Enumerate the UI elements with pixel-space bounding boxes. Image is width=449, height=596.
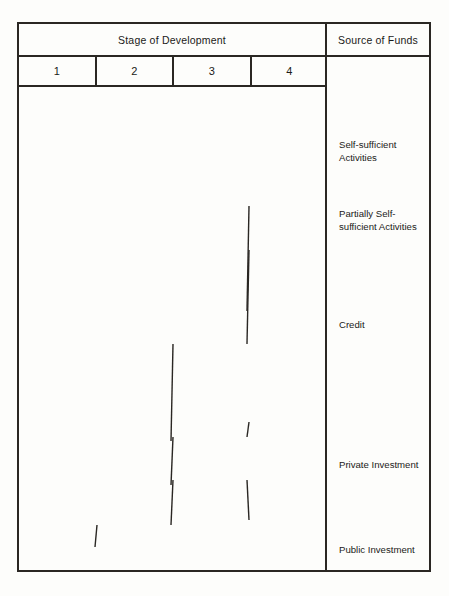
legend-label-public-investment: Public Investment	[339, 543, 431, 556]
chart-frame: Stage of Development Source of Funds 1 2…	[17, 22, 431, 572]
header-row-stage-numbers: 1 2 3 4	[19, 57, 327, 87]
legend-label-credit: Credit	[339, 318, 431, 331]
stage-cell-3: 3	[174, 57, 252, 85]
source-of-funds-title: Source of Funds	[338, 34, 418, 46]
stage-cell-1: 1	[19, 57, 97, 85]
figure-root: Stage of Development Source of Funds 1 2…	[0, 0, 449, 596]
header-row-titles: Stage of Development Source of Funds	[19, 24, 429, 57]
header-source-of-funds: Source of Funds	[327, 24, 429, 57]
legend-panel: Self-sufficient Activities Partially Sel…	[327, 87, 429, 570]
legend-label-private-investment: Private Investment	[339, 458, 431, 471]
stage-cell-2: 2	[97, 57, 175, 85]
stage-number-4: 4	[286, 65, 292, 77]
stage-of-development-title: Stage of Development	[118, 34, 226, 46]
header-stage-of-development: Stage of Development	[19, 24, 327, 57]
legend-label-self-sufficient-activities: Self-sufficient Activities	[339, 138, 431, 164]
legend-label-partially-self-sufficient-activities: Partially Self-sufficient Activities	[339, 207, 431, 233]
stage-cell-4: 4	[252, 57, 328, 85]
plot-area	[19, 87, 325, 570]
stage-number-3: 3	[209, 65, 215, 77]
stage-number-2: 2	[131, 65, 137, 77]
stage-number-1: 1	[54, 65, 60, 77]
